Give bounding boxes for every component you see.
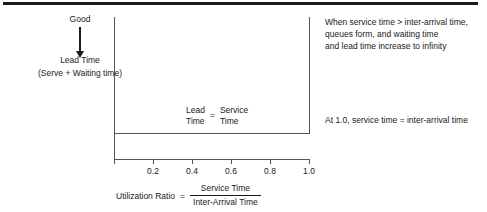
x-tick-1-0	[309, 159, 310, 164]
lead-time-sublabel: (Serve + Waiting time)	[10, 68, 150, 80]
annotation-at-one-note: At 1.0, service time = inter-arrival tim…	[325, 115, 468, 127]
plot-equation-left-line1: Lead	[186, 105, 205, 116]
x-tick-0-8	[270, 159, 271, 164]
good-label: Good	[50, 14, 110, 26]
plot-equation-left-line2: Time	[186, 116, 205, 127]
utilization-ratio-formula: Utilization Ratio = Service Time Inter-A…	[116, 183, 261, 208]
down-arrow-icon	[79, 27, 81, 52]
x-axis-line	[114, 159, 310, 160]
x-tick-0-4	[192, 159, 193, 164]
x-tick-label-0-4: 0.4	[177, 166, 207, 176]
plot-equation-left: Lead Time	[186, 105, 205, 127]
curve-vertical-asymptote	[309, 17, 310, 134]
annotation-queues-note-line3: and lead time increase to infinity	[325, 40, 468, 52]
lead-time-axis-label: Lead Time	[30, 55, 130, 67]
figure-canvas: Good Lead Time (Serve + Waiting time) 0.…	[0, 0, 487, 212]
utilization-ratio-fraction: Service Time Inter-Arrival Time	[190, 183, 261, 208]
utilization-ratio-operator: =	[180, 191, 185, 201]
x-tick-origin	[114, 159, 115, 164]
annotation-queues-note: When service time > inter-arrival time, …	[325, 16, 468, 52]
x-tick-label-0-2: 0.2	[138, 166, 168, 176]
plot-equation: Lead Time = Service Time	[186, 105, 248, 127]
x-tick-0-2	[153, 159, 154, 164]
plot-equation-operator: =	[210, 110, 215, 122]
plot-equation-right-line2: Time	[220, 116, 248, 127]
utilization-ratio-denominator: Inter-Arrival Time	[190, 195, 261, 208]
x-tick-label-0-6: 0.6	[216, 166, 246, 176]
plot-equation-right-line1: Service	[220, 105, 248, 116]
x-tick-label-1-0: 1.0	[294, 166, 324, 176]
x-tick-0-6	[231, 159, 232, 164]
annotation-queues-note-line1: When service time > inter-arrival time,	[325, 16, 468, 28]
plot-equation-right: Service Time	[220, 105, 248, 127]
x-tick-label-0-8: 0.8	[255, 166, 285, 176]
utilization-ratio-label: Utilization Ratio	[116, 191, 175, 201]
y-axis-line	[114, 17, 115, 160]
utilization-ratio-numerator: Service Time	[198, 183, 253, 195]
annotation-queues-note-line2: queues form, and waiting time	[325, 28, 468, 40]
curve-horizontal-segment	[114, 133, 310, 134]
top-divider-rule	[3, 2, 478, 5]
